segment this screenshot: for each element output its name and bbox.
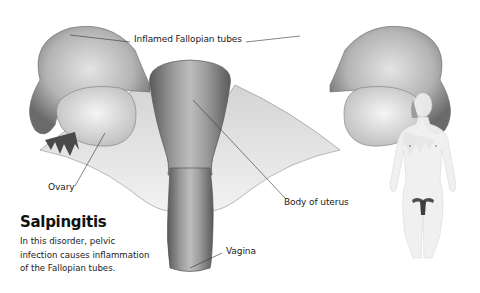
label-body-of-uterus: Body of uterus bbox=[284, 197, 349, 207]
label-ovary: Ovary bbox=[48, 182, 74, 192]
label-inflamed-fallopian-tubes: Inflamed Fallopian tubes bbox=[134, 34, 242, 44]
figure-description: In this disorder, pelvic infection cause… bbox=[20, 235, 155, 276]
figure-title: Salpingitis bbox=[20, 213, 106, 231]
label-vagina: Vagina bbox=[226, 246, 256, 256]
